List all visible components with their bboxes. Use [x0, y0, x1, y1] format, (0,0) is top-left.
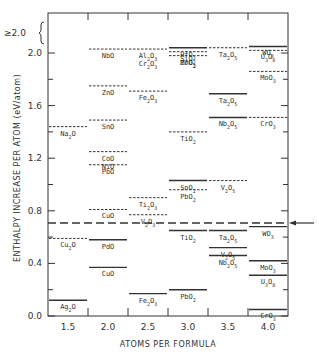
y-tick-label: 0.8 — [28, 206, 43, 216]
level-label: CuO — [102, 270, 115, 278]
x-tick-label: 3.5 — [221, 322, 235, 332]
y-tick-label: 2.0 — [28, 48, 43, 58]
level-label: Ta2O5 — [219, 234, 238, 244]
level-label: CoO — [102, 155, 115, 163]
level-label: CrO3 — [260, 312, 276, 322]
y-tick-label: 1.2 — [28, 153, 42, 163]
level-label: MoO3 — [260, 74, 276, 84]
level-label: SnO — [102, 123, 115, 131]
level-label: TiO2 — [180, 234, 196, 244]
level-label: Cu2O — [60, 241, 76, 251]
level-label: CrO3 — [260, 120, 276, 130]
level-label: PbO2 — [180, 193, 196, 203]
level-label: CuO — [102, 212, 115, 220]
level-label: PdO — [102, 243, 115, 251]
y-tick-label: 1.6 — [28, 101, 43, 111]
axis-ticks: 0.00.40.81.21.62.01.52.02.53.03.54.0 — [28, 13, 288, 332]
level-label: Ag2O — [60, 303, 76, 313]
level-label: PbO — [102, 168, 115, 176]
level-label: MoO3 — [260, 264, 276, 274]
level-label: U3O8 — [261, 278, 275, 288]
y-tick-label: 0.0 — [28, 311, 43, 321]
x-tick-label: 3.0 — [181, 322, 196, 332]
level-label: ZnO — [102, 89, 115, 97]
level-label: Ta2O5 — [219, 97, 238, 107]
level-label: Ti2O3 — [139, 201, 158, 211]
y-tick-label: 0.4 — [28, 258, 43, 268]
x-tick-label: 2.0 — [101, 322, 116, 332]
level-label: Fe2O3 — [139, 94, 158, 104]
x-tick-label: 2.5 — [141, 322, 155, 332]
x-tick-label: 4.0 — [261, 322, 276, 332]
y-axis-label: ENTHALPY INCREASE PER ATOM (eV/atom) — [13, 74, 22, 262]
x-tick-label: 1.5 — [61, 322, 75, 332]
level-label: Fe2O3 — [139, 297, 158, 307]
arrow-icon — [289, 221, 314, 226]
level-label: Nb2O5 — [219, 120, 238, 130]
energy-level-chart: 0.00.40.81.21.62.01.52.02.53.03.54.0 Cu2… — [0, 0, 319, 356]
plot-frame — [48, 13, 288, 316]
level-label: Na2O — [60, 130, 76, 140]
level-labels: Cu2ONa2ONbOZnOSnOCoONiOPbOCuOAl2O3Cr2O3F… — [60, 49, 276, 322]
brace-icon — [39, 22, 44, 44]
level-label: WO3 — [262, 230, 273, 240]
energy-levels — [49, 46, 287, 309]
x-axis-label: ATOMS PER FORMULA — [120, 340, 216, 349]
level-label: PbO2 — [180, 293, 196, 303]
level-label: Ta2O5 — [219, 51, 238, 61]
level-label: TiO2 — [180, 135, 196, 145]
level-label: V2O5 — [221, 184, 235, 194]
ytop-label: ≥2.0 — [4, 28, 26, 38]
level-label: NbO — [102, 52, 115, 60]
